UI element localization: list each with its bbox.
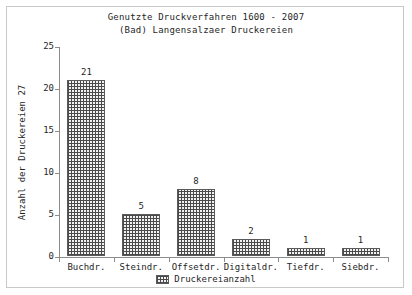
legend-label: Druckereianzahl (174, 274, 255, 284)
y-tick-label: 10 (43, 167, 54, 177)
chart-figure: Genutzte Druckverfahren 1600 - 2007 (Bad… (0, 0, 412, 295)
bar-item[interactable]: 2 (224, 226, 279, 256)
chart-title: Genutzte Druckverfahren 1600 - 2007 (0, 11, 412, 24)
y-tick-label: 5 (49, 209, 54, 219)
bar[interactable] (232, 239, 270, 256)
x-tick-label: Tiefdr. (278, 262, 333, 272)
bar[interactable] (67, 80, 105, 256)
chart-legend: Druckereianzahl (0, 274, 412, 284)
x-tick-label: Siebdr. (333, 262, 388, 272)
chart-subtitle: (Bad) Langensalzaer Druckereien (0, 24, 412, 37)
bar[interactable] (342, 248, 380, 256)
x-tick-label: Offsetdr. (169, 262, 224, 272)
bar-value-label: 1 (358, 235, 363, 245)
x-tick-label: Digitaldr. (224, 262, 279, 272)
x-tick-label: Steindr. (114, 262, 169, 272)
plot-area: 0510152025 2158211 (59, 47, 388, 257)
bar-item[interactable]: 1 (278, 235, 333, 256)
bar-item[interactable]: 21 (59, 67, 114, 256)
y-tick-label: 0 (49, 251, 54, 261)
bar-value-label: 1 (303, 235, 308, 245)
y-tick-label: 20 (43, 83, 54, 93)
y-axis-title: Anzahl der Druckereien 27 (17, 47, 29, 258)
y-tick-mark (55, 47, 60, 48)
bar-value-label: 21 (81, 67, 92, 77)
bar-item[interactable]: 1 (333, 235, 388, 256)
y-tick-label: 25 (43, 41, 54, 51)
x-tick-mark (388, 257, 389, 262)
bar[interactable] (122, 214, 160, 256)
legend-swatch-icon (156, 275, 169, 284)
bar-item[interactable]: 8 (169, 176, 224, 256)
bar-value-label: 8 (193, 176, 198, 186)
bar[interactable] (177, 189, 215, 256)
bar-value-label: 5 (139, 201, 144, 211)
bar-item[interactable]: 5 (114, 201, 169, 256)
y-tick-label: 15 (43, 125, 54, 135)
chart-title-block: Genutzte Druckverfahren 1600 - 2007 (Bad… (0, 11, 412, 37)
bar[interactable] (287, 248, 325, 256)
bar-value-label: 2 (248, 226, 253, 236)
x-tick-label: Buchdr. (59, 262, 114, 272)
